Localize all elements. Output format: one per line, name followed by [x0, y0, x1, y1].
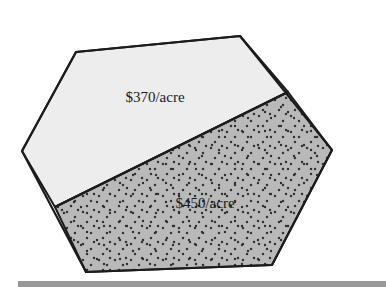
land-parcel-figure: $370/acre $450/acre [0, 0, 386, 292]
bottom-rule [18, 281, 386, 287]
parcel-diagram: $370/acre $450/acre [0, 0, 386, 292]
upper-parcel-label: $370/acre [125, 89, 184, 105]
lower-parcel-label: $450/acre [175, 195, 234, 211]
